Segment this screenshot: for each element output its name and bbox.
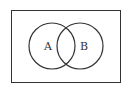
set-a-circle xyxy=(29,23,75,69)
set-a-label: A xyxy=(43,40,53,53)
universe-rectangle xyxy=(12,11,121,83)
venn-diagram: A B xyxy=(0,0,133,85)
set-b-label: B xyxy=(80,40,88,53)
